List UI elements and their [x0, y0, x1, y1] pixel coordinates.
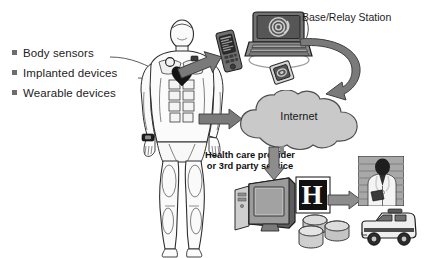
- bullet-label: Body sensors: [23, 47, 94, 60]
- internet-cloud-icon: [234, 90, 364, 156]
- bullet-label: Implanted devices: [23, 67, 117, 80]
- bullet-label: Wearable devices: [23, 87, 116, 100]
- database-cylinders-icon: [293, 212, 351, 254]
- doctor-photo: [358, 156, 404, 206]
- chest-sensor-icon: [166, 58, 175, 67]
- ambulance-icon: [356, 208, 422, 250]
- wrist-wearable-icon: [142, 134, 154, 141]
- arrow-body-to-internet: [198, 108, 244, 130]
- arrow-body-to-pda: [176, 48, 226, 82]
- square-bullet-icon: [12, 50, 17, 55]
- diagram-canvas: Body sensors Implanted devices Wearable …: [0, 0, 427, 258]
- hospital-letter: H: [299, 180, 325, 210]
- base-station-label: Base/Relay Station: [302, 11, 391, 23]
- square-bullet-icon: [12, 70, 17, 75]
- internet-label: Internet: [269, 110, 329, 122]
- square-bullet-icon: [12, 90, 17, 95]
